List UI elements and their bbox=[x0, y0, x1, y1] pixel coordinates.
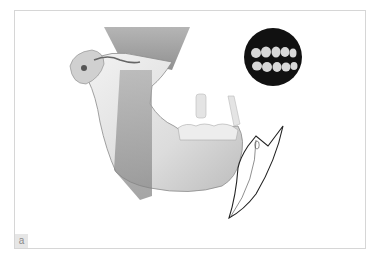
mandible bbox=[88, 53, 243, 191]
tooth-molar bbox=[196, 94, 206, 118]
tooth-incisor bbox=[228, 96, 240, 126]
lower-teeth bbox=[178, 124, 238, 140]
ramus-plane bbox=[114, 70, 152, 200]
panel-label: a bbox=[15, 234, 28, 248]
mandible-illustration bbox=[0, 0, 381, 258]
